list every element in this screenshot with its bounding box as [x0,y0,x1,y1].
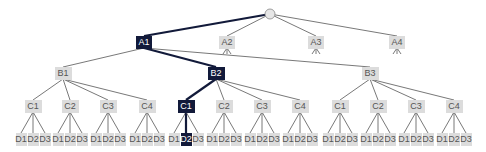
node-d-leaf: D3 [154,133,165,146]
edge [250,112,262,133]
node-b1: B1 [55,67,72,80]
node-d-leaf: D3 [231,133,242,146]
edge [216,79,300,100]
edge [147,112,159,133]
edge [63,79,147,100]
node-d-leaf: D2 [335,133,346,146]
node-d-leaf: D2 [373,133,384,146]
edge [33,79,63,100]
node-d-leaf: D2 [181,133,192,146]
edge [21,112,33,133]
node-d-leaf: D3 [193,133,204,146]
edge [316,48,320,54]
node-d-leaf: D1 [53,133,64,146]
node-b1-c4: C4 [139,100,156,113]
node-d-leaf: D3 [77,133,88,146]
edge [300,112,312,133]
edge [108,112,120,133]
node-d-leaf: D1 [437,133,448,146]
edge [135,112,147,133]
node-a4: A4 [389,36,405,49]
node-d-leaf: D3 [40,133,51,146]
tree-edges [0,0,486,152]
node-d-leaf: D2 [65,133,76,146]
active-edge [186,79,216,100]
node-b1-c3: C3 [100,100,117,113]
edge [223,48,227,54]
edge [378,112,390,133]
node-b3-c1: C1 [332,100,349,113]
edge [270,14,397,36]
node-d-leaf: D3 [347,133,358,146]
node-b1-c1: C1 [25,100,42,113]
edge [186,112,198,133]
node-a3: A3 [308,36,324,49]
node-a1: A1 [136,36,152,49]
node-b3-c2: C2 [370,100,387,113]
node-d-leaf: D2 [219,133,230,146]
edge [96,112,108,133]
node-b1-c2: C2 [62,100,79,113]
node-d-leaf: D3 [461,133,472,146]
node-d-leaf: D1 [283,133,294,146]
edge [340,79,370,100]
node-d-leaf: D1 [91,133,102,146]
edge [63,79,108,100]
edge [63,48,144,67]
node-b2-c1: C1 [178,100,195,113]
edge [393,48,397,54]
edge [70,112,82,133]
edge [174,112,186,133]
node-d-leaf: D3 [385,133,396,146]
node-d-leaf: D2 [449,133,460,146]
edge [212,112,224,133]
node-d-leaf: D1 [16,133,27,146]
node-a2: A2 [219,36,235,49]
node-d-leaf: D1 [207,133,218,146]
active-edge [144,14,270,36]
edge [340,112,352,133]
edge [404,112,416,133]
node-d-leaf: D3 [307,133,318,146]
node-d-leaf: D1 [399,133,410,146]
node-b3-c3: C3 [408,100,425,113]
node-d-leaf: D2 [28,133,39,146]
node-d-leaf: D2 [295,133,306,146]
root-node [265,9,275,19]
node-d-leaf: D1 [169,133,180,146]
node-b2: B2 [208,67,225,80]
node-d-leaf: D2 [103,133,114,146]
tree-diagram: A1A2A3A4B1B2B3C1C2C3C4C1C2C3C4C1C2C3C4D1… [0,0,486,152]
edge [328,112,340,133]
edge [288,112,300,133]
node-b2-c3: C3 [254,100,271,113]
node-d-leaf: D3 [269,133,280,146]
node-d-leaf: D1 [323,133,334,146]
edge [397,48,401,54]
node-b3: B3 [362,67,379,80]
edge [224,112,236,133]
edge [58,112,70,133]
edge [416,112,428,133]
node-d-leaf: D1 [361,133,372,146]
node-b2-c2: C2 [216,100,233,113]
edge [262,112,274,133]
edge [370,79,454,100]
node-d-leaf: D2 [411,133,422,146]
node-d-leaf: D1 [245,133,256,146]
node-d-leaf: D3 [115,133,126,146]
edge [227,48,231,54]
node-b2-c4: C4 [292,100,309,113]
edge [312,48,316,54]
edge [366,112,378,133]
edge [442,112,454,133]
node-b3-c4: C4 [446,100,463,113]
node-d-leaf: D3 [423,133,434,146]
edge [33,112,45,133]
node-d-leaf: D2 [142,133,153,146]
edge [270,14,316,36]
edge [454,112,466,133]
node-d-leaf: D1 [130,133,141,146]
node-d-leaf: D2 [257,133,268,146]
